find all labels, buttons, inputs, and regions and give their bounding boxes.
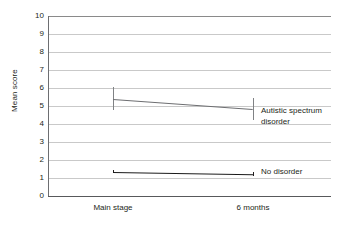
y-tick-1: 1	[26, 174, 44, 182]
gridline-2	[48, 160, 331, 161]
errorbar-no-disorder-6-months	[253, 172, 254, 176]
y-axis-title: Mean score	[10, 55, 19, 127]
gridline-6	[48, 88, 331, 89]
gridline-1	[48, 178, 331, 179]
gridline-3	[48, 142, 331, 143]
y-axis-tick-labels: 10 9 8 7 6 5 4 3 2 1 0	[22, 0, 44, 232]
plot-top-border	[48, 16, 331, 17]
chart-container: Mean score 10 9 8 7 6 5 4 3 2 1 0	[0, 0, 342, 232]
y-tick-2: 2	[26, 156, 44, 164]
x-tick-6-months: 6 months	[237, 203, 270, 212]
series-line-autistic	[113, 99, 253, 110]
y-tick-5: 5	[26, 102, 44, 110]
y-tick-4: 4	[26, 120, 44, 128]
series-annotation-autistic-line2: disorder	[261, 117, 322, 128]
errorbar-autistic-6-months	[253, 98, 254, 121]
gridline-9	[48, 34, 331, 35]
gridline-7	[48, 70, 331, 71]
y-tick-9: 9	[26, 30, 44, 38]
y-axis-line	[48, 16, 49, 197]
y-tick-0: 0	[26, 192, 44, 200]
series-line-no-disorder	[113, 172, 253, 176]
y-tick-3: 3	[26, 138, 44, 146]
y-tick-6: 6	[26, 84, 44, 92]
x-axis-line	[48, 196, 331, 197]
gridline-8	[48, 52, 331, 53]
y-tick-10: 10	[26, 12, 44, 20]
series-annotation-autistic-line1: Autistic spectrum	[261, 106, 322, 117]
y-tick-7: 7	[26, 66, 44, 74]
series-annotation-no-disorder: No disorder	[261, 167, 302, 178]
x-tick-main-stage: Main stage	[93, 203, 132, 212]
y-tick-8: 8	[26, 48, 44, 56]
series-annotation-autistic: Autistic spectrum disorder	[261, 106, 322, 127]
